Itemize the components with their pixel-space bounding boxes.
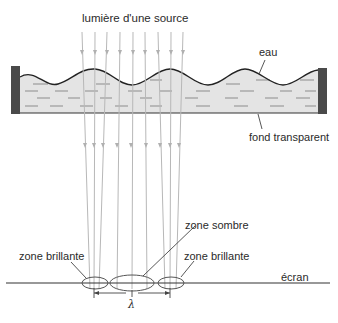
tank-wall-right [318,68,327,114]
label-wavelength: λ [128,299,135,311]
label-transparent-bottom: fond transparent [249,131,329,143]
wavelength-dimension [94,288,170,298]
label-water: eau [259,46,277,58]
tank-wall-left [11,66,20,114]
label-bright-zone-left: zone brillante [19,250,84,262]
label-light-source: lumière d'une source [82,12,188,24]
ray-arrowheads-bottom [83,143,181,148]
label-bright-zone-right: zone brillante [184,250,249,262]
label-screen: écran [281,271,309,283]
label-dark-zone: zone sombre [185,219,249,231]
